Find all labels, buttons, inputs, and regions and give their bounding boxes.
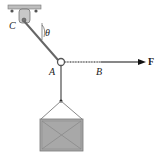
sling-left xyxy=(41,101,61,119)
label-a: A xyxy=(49,67,55,77)
crate xyxy=(40,119,83,151)
cable-ca xyxy=(24,21,58,60)
label-b: B xyxy=(96,67,102,77)
ring-a xyxy=(58,59,65,66)
label-c: C xyxy=(9,21,16,31)
sling-right xyxy=(61,101,82,119)
force-arrowhead-icon xyxy=(138,59,146,65)
label-f: F xyxy=(148,57,154,67)
diagram-canvas xyxy=(0,0,158,159)
label-theta: θ xyxy=(45,28,50,38)
